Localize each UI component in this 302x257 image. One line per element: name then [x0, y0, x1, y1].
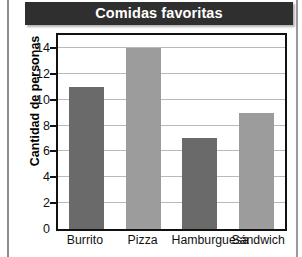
- x-tick-label: Sándwich: [229, 233, 287, 247]
- y-tick-label: 12: [24, 67, 50, 81]
- chart-title-bar: Comidas favoritas: [25, 2, 293, 25]
- y-tick-label: 8: [24, 119, 50, 133]
- chart-title: Comidas favoritas: [25, 2, 293, 25]
- bar: [126, 48, 161, 229]
- plot-inner: [58, 35, 285, 229]
- bar: [239, 113, 274, 229]
- x-tick-label: Hamburguesa: [172, 233, 230, 247]
- x-tick-label: Pizza: [114, 233, 172, 247]
- bar-slot: [228, 35, 285, 229]
- bar-slot: [172, 35, 229, 229]
- plot-area: [56, 33, 287, 231]
- y-tick-label: 2: [24, 196, 50, 210]
- bar-chart-figure: Comidas favoritas Cantidad de personas 0…: [0, 0, 302, 257]
- y-tick-label: 10: [24, 93, 50, 107]
- y-tick-label: 6: [24, 144, 50, 158]
- x-axis-labels: BurritoPizzaHamburguesaSándwich: [56, 233, 287, 247]
- y-tick-label: 0: [24, 222, 50, 236]
- bar: [182, 138, 217, 229]
- bar-slot: [115, 35, 172, 229]
- bar-slot: [58, 35, 115, 229]
- y-tick-label: 14: [24, 41, 50, 55]
- bar: [69, 87, 104, 229]
- x-tick-label: Burrito: [56, 233, 114, 247]
- y-tick-label: 4: [24, 170, 50, 184]
- bar-series: [58, 35, 285, 229]
